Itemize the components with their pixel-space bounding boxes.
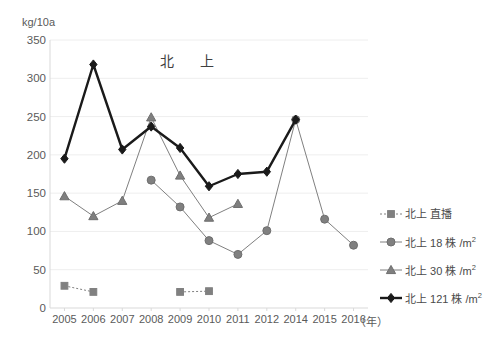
legend-item-2[interactable]: 北上 18 株 /m2 bbox=[378, 228, 500, 256]
data-point-circle bbox=[147, 176, 155, 184]
legend-label: 北上 18 株 /m2 bbox=[405, 236, 476, 249]
series-1 bbox=[61, 282, 212, 295]
legend-item-3[interactable]: 北上 30 株 /m2 bbox=[378, 256, 500, 284]
legend-swatch-triangle bbox=[378, 263, 404, 277]
legend-swatch-circle bbox=[378, 235, 404, 249]
y-tick-label: 250 bbox=[12, 111, 46, 123]
data-point-triangle bbox=[386, 265, 395, 273]
data-point-circle bbox=[321, 215, 329, 223]
y-tick-label: 300 bbox=[12, 72, 46, 84]
y-axis-tick-labels: 050100150200250300350 bbox=[8, 0, 46, 344]
series-line bbox=[64, 117, 237, 217]
data-point-diamond bbox=[234, 169, 241, 178]
data-point-triangle bbox=[204, 213, 213, 221]
chart-container: kg/10a 北 上 050100150200250300350 2005200… bbox=[0, 0, 501, 344]
legend-item-4[interactable]: 北上 121 株 /m2 bbox=[378, 284, 500, 312]
x-axis-title: （年） bbox=[355, 313, 388, 329]
legend-label: 北上 121 株 /m2 bbox=[405, 292, 482, 305]
data-point-triangle bbox=[233, 199, 242, 207]
data-point-circle bbox=[387, 238, 395, 246]
x-tick-label: 2012 bbox=[255, 313, 279, 325]
x-tick-label: 2015 bbox=[312, 313, 336, 325]
series-2 bbox=[147, 116, 357, 259]
series-line bbox=[64, 65, 295, 187]
data-point-triangle bbox=[118, 196, 127, 204]
legend-label: 北上 直播 bbox=[405, 209, 452, 220]
x-tick-label: 2006 bbox=[81, 313, 105, 325]
x-tick-label: 2005 bbox=[52, 313, 76, 325]
legend-item-1[interactable]: 北上 直播 bbox=[378, 200, 500, 228]
series-line bbox=[151, 120, 353, 255]
legend-label: 北上 30 株 /m2 bbox=[405, 264, 476, 277]
data-point-triangle bbox=[89, 212, 98, 220]
data-point-diamond bbox=[387, 293, 394, 302]
y-tick-label: 350 bbox=[12, 34, 46, 46]
y-tick-label: 0 bbox=[12, 302, 46, 314]
data-point-square bbox=[90, 289, 97, 296]
x-tick-label: 2008 bbox=[139, 313, 163, 325]
data-point-diamond bbox=[61, 154, 68, 163]
data-point-circle bbox=[205, 237, 213, 245]
y-tick-label: 200 bbox=[12, 149, 46, 161]
data-point-square bbox=[61, 282, 68, 289]
data-point-circle bbox=[234, 250, 242, 258]
data-point-circle bbox=[176, 203, 184, 211]
x-tick-label: 2009 bbox=[168, 313, 192, 325]
data-point-square bbox=[206, 288, 213, 295]
data-point-diamond bbox=[90, 60, 97, 69]
x-tick-label: 2014 bbox=[283, 313, 307, 325]
x-tick-label: 2011 bbox=[226, 313, 250, 325]
y-tick-label: 50 bbox=[12, 264, 46, 276]
series-line bbox=[64, 286, 93, 292]
data-point-circle bbox=[263, 227, 271, 235]
legend-swatch-diamond bbox=[378, 291, 404, 305]
data-point-square bbox=[388, 211, 395, 218]
y-tick-label: 150 bbox=[12, 187, 46, 199]
x-tick-label: 2007 bbox=[110, 313, 134, 325]
series-line bbox=[180, 291, 209, 292]
legend-swatch-square bbox=[378, 207, 404, 221]
data-point-triangle bbox=[175, 171, 184, 179]
x-tick-label: 2010 bbox=[197, 313, 221, 325]
chart-legend: 北上 直播北上 18 株 /m2北上 30 株 /m2北上 121 株 /m2 bbox=[378, 200, 500, 312]
y-tick-label: 100 bbox=[12, 225, 46, 237]
data-point-square bbox=[177, 289, 184, 296]
data-point-circle bbox=[350, 241, 358, 249]
